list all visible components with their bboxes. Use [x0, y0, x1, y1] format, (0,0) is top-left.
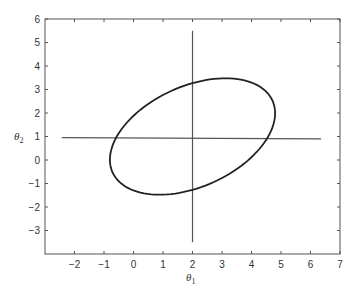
x-tick-label: 5 — [278, 259, 284, 270]
y-tick-label: 3 — [34, 84, 40, 95]
x-axis-label: θ1 — [186, 271, 195, 286]
y-tick-label: −2 — [29, 202, 41, 213]
chart-svg: −2−101234567−3−2−10123456 θ1 θ2 — [0, 0, 358, 295]
x-tick-label: 7 — [337, 259, 343, 270]
x-tick-label: 0 — [131, 259, 137, 270]
horizontal-line — [62, 138, 321, 139]
x-tick-label: 6 — [308, 259, 314, 270]
x-tick-label: 3 — [219, 259, 225, 270]
data-series — [62, 31, 321, 243]
axis-ticks: −2−101234567−3−2−10123456 — [29, 14, 344, 271]
y-tick-label: 4 — [34, 61, 40, 72]
x-tick-label: −1 — [98, 259, 110, 270]
y-tick-label: 1 — [34, 131, 40, 142]
y-axis-label: θ2 — [14, 130, 23, 145]
x-tick-label: −2 — [69, 259, 81, 270]
y-tick-label: −3 — [29, 225, 41, 236]
y-tick-label: −1 — [29, 178, 41, 189]
x-tick-label: 4 — [249, 259, 255, 270]
y-tick-label: 6 — [34, 14, 40, 25]
y-tick-label: 2 — [34, 108, 40, 119]
y-tick-label: 0 — [34, 155, 40, 166]
y-tick-label: 5 — [34, 37, 40, 48]
x-tick-label: 1 — [160, 259, 166, 270]
x-tick-label: 2 — [190, 259, 196, 270]
